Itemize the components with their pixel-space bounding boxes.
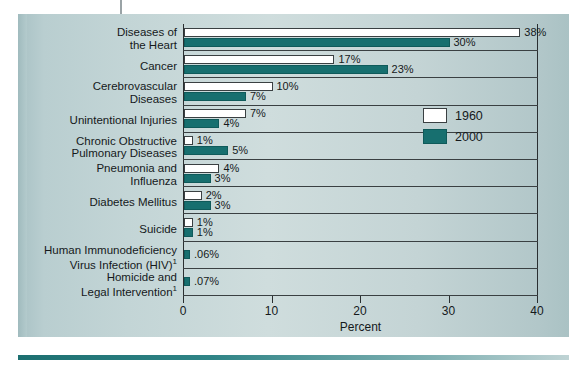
legend-label-2000: 2000 bbox=[455, 130, 483, 144]
x-tick-label: 30 bbox=[442, 304, 455, 318]
figure-root: Diseases ofthe Heart38%30%Cancer17%23%Ce… bbox=[0, 0, 569, 370]
x-tick-label: 40 bbox=[530, 304, 543, 318]
bar-value-label: 5% bbox=[232, 145, 248, 156]
bar-value-label: 7% bbox=[250, 91, 266, 102]
x-tick bbox=[449, 296, 450, 303]
bar-2000 bbox=[184, 174, 211, 183]
category-label: Homicide andLegal Intervention1 bbox=[0, 271, 177, 299]
white-swatch-icon bbox=[423, 108, 447, 123]
bar-row: Chronic ObstructivePulmonary Diseases1%5… bbox=[183, 133, 538, 160]
bar-value-label: 23% bbox=[392, 64, 414, 75]
x-tick bbox=[360, 296, 361, 303]
bar-value-label: .07% bbox=[194, 276, 219, 287]
bar-value-label: 30% bbox=[454, 37, 476, 48]
bar-row: Unintentional Injuries7%4% bbox=[183, 106, 538, 133]
category-label: Diseases ofthe Heart bbox=[0, 26, 177, 51]
bar-2000 bbox=[184, 65, 388, 74]
bar-1960 bbox=[184, 136, 193, 145]
legend-item-2000: 2000 bbox=[423, 129, 483, 144]
bar-2000 bbox=[184, 277, 190, 286]
bar-1960 bbox=[184, 191, 202, 200]
x-tick-label: 20 bbox=[353, 304, 366, 318]
bar-row: CerebrovascularDiseases10%7% bbox=[183, 78, 538, 105]
bar-2000 bbox=[184, 201, 211, 210]
bar-1960 bbox=[184, 55, 334, 64]
bar-row: Cancer17%23% bbox=[183, 51, 538, 78]
bar-row: Human ImmunodeficiencyVirus Infection (H… bbox=[183, 242, 538, 269]
x-tick bbox=[183, 296, 184, 303]
bar-2000 bbox=[184, 119, 219, 128]
bottom-teal-rule bbox=[18, 355, 569, 360]
x-axis-ticks: 010203040 bbox=[183, 296, 538, 304]
bar-value-label: 3% bbox=[215, 173, 231, 184]
category-label: Human ImmunodeficiencyVirus Infection (H… bbox=[0, 244, 177, 272]
bar-2000 bbox=[184, 250, 190, 259]
x-tick bbox=[537, 296, 538, 303]
bar-value-label: .06% bbox=[194, 249, 219, 260]
legend: 1960 2000 bbox=[423, 108, 483, 150]
bar-value-label: 4% bbox=[223, 118, 239, 129]
bar-2000 bbox=[184, 92, 246, 101]
bar-value-label: 10% bbox=[277, 81, 299, 92]
bar-row: Diseases ofthe Heart38%30% bbox=[183, 24, 538, 51]
category-label: Chronic ObstructivePulmonary Diseases bbox=[0, 135, 177, 160]
legend-label-1960: 1960 bbox=[455, 109, 483, 123]
bar-row: Suicide1%1% bbox=[183, 214, 538, 241]
bar-2000 bbox=[184, 146, 228, 155]
plot-area: Diseases ofthe Heart38%30%Cancer17%23%Ce… bbox=[183, 24, 538, 296]
bar-value-label: 17% bbox=[338, 54, 360, 65]
x-tick-label: 0 bbox=[180, 304, 187, 318]
chart-panel: Diseases ofthe Heart38%30%Cancer17%23%Ce… bbox=[18, 14, 569, 337]
category-label: Unintentional Injuries bbox=[0, 114, 177, 127]
bar-value-label: 1% bbox=[197, 227, 213, 238]
category-label: Diabetes Mellitus bbox=[0, 196, 177, 209]
bar-value-label: 3% bbox=[215, 200, 231, 211]
bar-2000 bbox=[184, 228, 193, 237]
bar-2000 bbox=[184, 38, 450, 47]
x-axis-title: Percent bbox=[183, 320, 538, 334]
category-label: Cancer bbox=[0, 60, 177, 73]
x-tick-label: 10 bbox=[265, 304, 278, 318]
bar-row: Pneumonia andInfluenza4%3% bbox=[183, 160, 538, 187]
teal-swatch-icon bbox=[423, 129, 447, 144]
bar-row: Diabetes Mellitus2%3% bbox=[183, 187, 538, 214]
bar-value-label: 1% bbox=[197, 135, 213, 146]
bar-value-label: 7% bbox=[250, 108, 266, 119]
category-label: Suicide bbox=[0, 223, 177, 236]
category-label: Pneumonia andInfluenza bbox=[0, 162, 177, 187]
legend-item-1960: 1960 bbox=[423, 108, 483, 123]
x-tick bbox=[272, 296, 273, 303]
category-label: CerebrovascularDiseases bbox=[0, 80, 177, 105]
bar-1960 bbox=[184, 218, 193, 227]
bar-value-label: 38% bbox=[524, 27, 546, 38]
bar-row: Homicide andLegal Intervention1.07% bbox=[183, 269, 538, 296]
